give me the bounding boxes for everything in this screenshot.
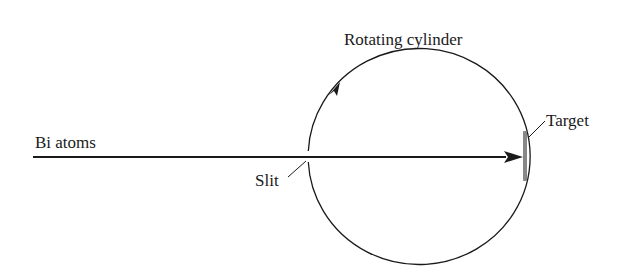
target-label: Target bbox=[546, 111, 589, 130]
beam-arrowhead-icon bbox=[504, 151, 523, 163]
bi-atoms-label: Bi atoms bbox=[35, 133, 96, 152]
target-strip bbox=[523, 131, 527, 181]
rotation-arrow-icon bbox=[329, 82, 340, 96]
slit-label: Slit bbox=[255, 171, 279, 190]
target-leader-line bbox=[529, 121, 545, 137]
rotating-cylinder-label: Rotating cylinder bbox=[344, 30, 463, 49]
stern-experiment-diagram: Rotating cylinder Bi atoms Slit Target bbox=[0, 0, 634, 272]
slit-leader-line bbox=[288, 161, 306, 177]
